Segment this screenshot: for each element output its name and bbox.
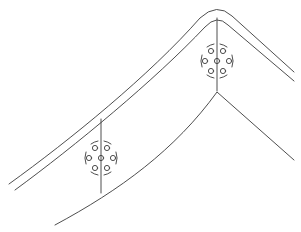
bolt-icon [208, 48, 213, 53]
bolt-icon [110, 155, 115, 160]
bolt-icon [220, 68, 225, 73]
bolt-icon [208, 68, 213, 73]
outer-rafter-line [9, 9, 294, 184]
bottom-chord-line [55, 92, 294, 225]
bolt-icon [220, 48, 225, 53]
bolt-icon [104, 165, 109, 170]
bolt-icon [104, 145, 109, 150]
bolt-icon [92, 165, 97, 170]
bolt-icon [202, 58, 207, 63]
truss-drawing [0, 0, 301, 232]
diagram-canvas [0, 0, 301, 232]
bolt-icon [86, 155, 91, 160]
inner-rafter-line [15, 20, 294, 190]
bolt-icon [226, 58, 231, 63]
bolt-icon [92, 145, 97, 150]
